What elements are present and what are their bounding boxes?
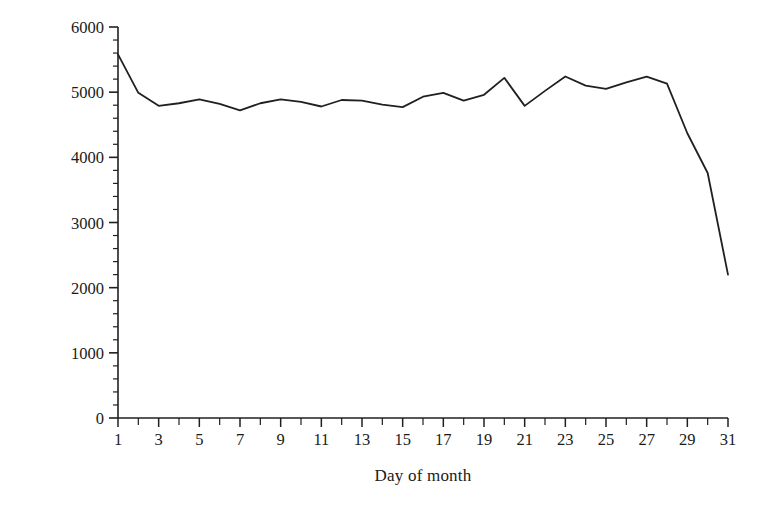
x-axis-title-label: Day of month <box>375 466 472 485</box>
x-axis-tick-label: 23 <box>557 430 574 449</box>
x-axis-tick-label: 5 <box>195 430 203 449</box>
y-axis-tick-label: 5000 <box>71 83 104 102</box>
x-axis-tick-label: 11 <box>313 430 329 449</box>
x-axis-tick-label: 29 <box>679 430 696 449</box>
x-axis-tick-label: 19 <box>476 430 493 449</box>
x-axis-tick-label: 13 <box>354 430 371 449</box>
x-axis: 135791113151719212325272931 <box>114 418 736 449</box>
line-chart-plot: 0100020003000400050006000 13579111315171… <box>0 0 769 513</box>
x-axis-tick-label: 3 <box>155 430 163 449</box>
x-axis-tick-label: 27 <box>638 430 655 449</box>
x-axis-title: Day of month <box>118 466 728 486</box>
y-axis: 0100020003000400050006000 <box>71 18 118 428</box>
x-axis-tick-label: 21 <box>516 430 533 449</box>
x-axis-tick-label: 25 <box>598 430 615 449</box>
chart-figure: Crime incidents Day of month 01000200030… <box>0 0 769 513</box>
x-axis-tick-label: 9 <box>277 430 285 449</box>
x-axis-tick-label: 7 <box>236 430 244 449</box>
x-axis-tick-label: 15 <box>394 430 411 449</box>
data-series-crime-incidents <box>118 54 728 274</box>
x-axis-tick-label: 1 <box>114 430 122 449</box>
x-axis-tick-label: 31 <box>720 430 737 449</box>
y-axis-tick-label: 6000 <box>71 18 104 37</box>
x-axis-tick-label: 17 <box>435 430 452 449</box>
y-axis-title: Crime incidents <box>0 0 40 513</box>
y-axis-tick-label: 1000 <box>71 344 104 363</box>
y-axis-tick-label: 0 <box>96 409 104 428</box>
y-axis-tick-label: 3000 <box>71 214 104 233</box>
y-axis-tick-label: 2000 <box>71 279 104 298</box>
y-axis-tick-label: 4000 <box>71 148 104 167</box>
series-line-crime-incidents <box>118 54 728 274</box>
